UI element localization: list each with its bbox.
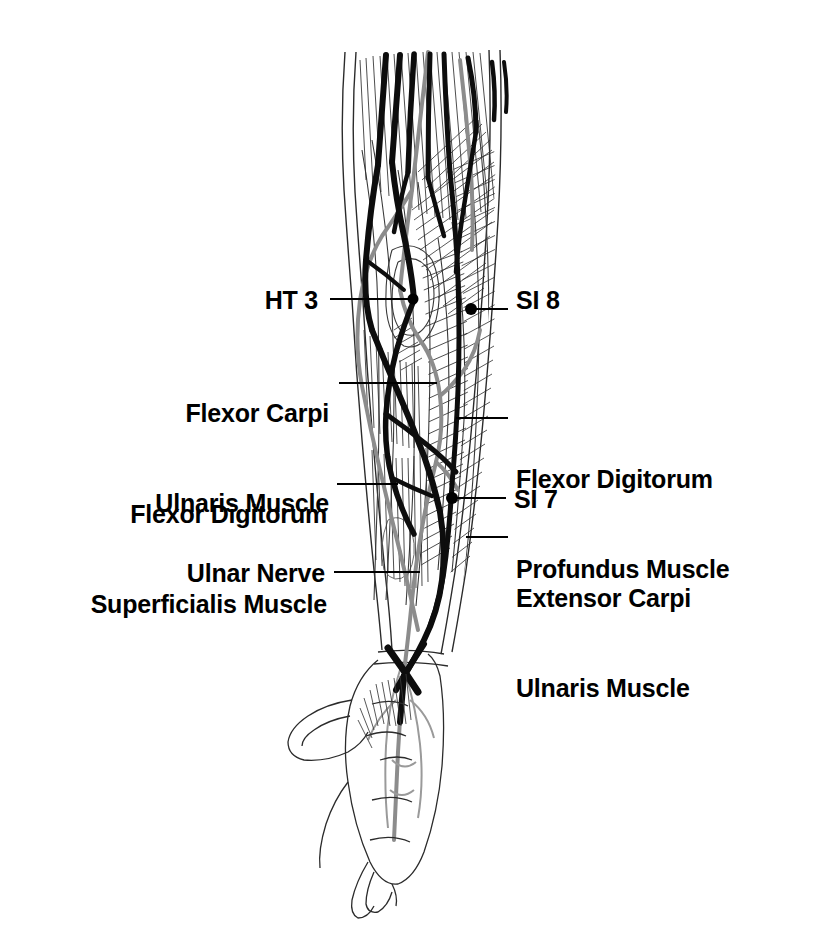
label-si7: SI 7 — [514, 484, 754, 514]
acupoint-si7 — [446, 492, 458, 504]
label-ulnar-nerve-text: Ulnar Nerve — [187, 559, 325, 587]
label-ht3-text: HT 3 — [265, 286, 318, 314]
label-ecu-line2: Ulnaris Muscle — [516, 673, 816, 703]
figure-page: HT 3 SI 8 Flexor Carpi Ulnaris Muscle Fl… — [0, 0, 819, 937]
label-fds-line2: Superficialis Muscle — [0, 589, 327, 619]
acupoint-ht3 — [408, 294, 419, 305]
label-si7-text: SI 7 — [514, 485, 558, 513]
acupoint-si8 — [465, 303, 477, 315]
label-extensor-carpi-ulnaris: Extensor Carpi Ulnaris Muscle — [516, 523, 816, 763]
label-si8: SI 8 — [516, 285, 756, 315]
label-ht3: HT 3 — [98, 285, 318, 315]
label-fcu-line1: Flexor Carpi — [29, 398, 329, 428]
label-ulnar-nerve: Ulnar Nerve — [25, 558, 325, 588]
label-fds-line1: Flexor Digitorum — [0, 499, 327, 529]
label-si8-text: SI 8 — [516, 286, 560, 314]
label-ecu-line1: Extensor Carpi — [516, 583, 816, 613]
